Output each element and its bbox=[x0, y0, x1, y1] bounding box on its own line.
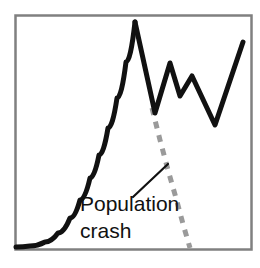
population-crash-chart: Population crash bbox=[0, 0, 260, 268]
figure-root: Population crash bbox=[0, 0, 260, 268]
annotation-label-line1: Population bbox=[80, 192, 179, 215]
annotation-label-line2: crash bbox=[80, 219, 131, 242]
